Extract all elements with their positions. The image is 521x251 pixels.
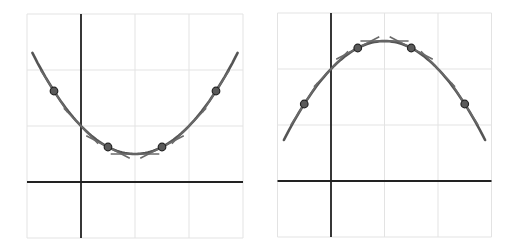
data-point (461, 100, 469, 108)
data-point (354, 44, 362, 52)
data-point (407, 44, 415, 52)
data-point (300, 100, 308, 108)
left-parabola-plot (0, 0, 260, 251)
data-point (212, 87, 220, 95)
data-point (50, 87, 58, 95)
right-parabola-plot (260, 0, 521, 251)
right-plot-canvas (260, 0, 521, 251)
grid (278, 13, 492, 237)
data-point (104, 143, 112, 151)
grid (27, 14, 243, 238)
left-plot-canvas (0, 0, 260, 251)
data-point (158, 143, 166, 151)
